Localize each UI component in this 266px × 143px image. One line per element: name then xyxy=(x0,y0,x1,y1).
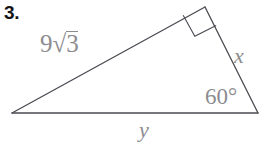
angle-measure-label: 60° xyxy=(205,85,237,108)
triangle-side-hypotenuse xyxy=(12,7,205,113)
side-y-label: y xyxy=(139,119,149,141)
hypotenuse-coefficient: 9 xyxy=(40,30,53,57)
triangle-figure xyxy=(0,0,266,143)
radical-sign-icon: √ xyxy=(53,30,67,57)
side-x-label: x xyxy=(234,45,244,67)
problem-figure-canvas: 3. 9√3 x y 60° xyxy=(0,0,266,143)
hypotenuse-length-label: 9√3 xyxy=(40,29,79,56)
hypotenuse-radicand: 3 xyxy=(66,29,79,56)
